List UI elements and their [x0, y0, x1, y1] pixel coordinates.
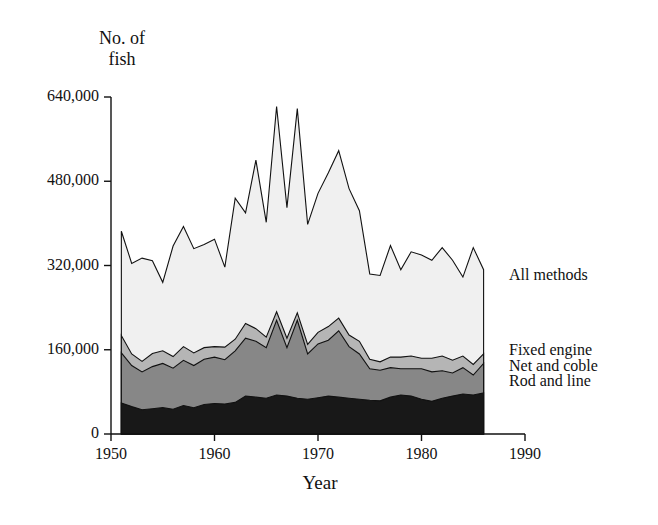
x-axis-tick-label: 1960 [170, 445, 260, 463]
x-axis-tick-label: 1970 [273, 445, 363, 463]
y-axis-tick-label: 320,000 [0, 256, 99, 274]
y-axis-tick-label: 480,000 [0, 171, 99, 189]
stacked-area-chart: No. of fish Year 0160,000320,000480,0006… [0, 0, 658, 525]
area-series-group [121, 106, 483, 434]
y-axis-tick-label: 640,000 [0, 87, 99, 105]
y-axis-tick-label: 160,000 [0, 340, 99, 358]
x-axis-tick-label: 1980 [377, 445, 467, 463]
y-axis-tick-label: 0 [0, 424, 99, 442]
x-axis-tick-label: 1950 [66, 445, 156, 463]
series-annotation-all-methods: All methods [509, 266, 588, 284]
series-annotation-rod-and-line: Rod and line [509, 372, 591, 390]
x-axis-tick-label: 1990 [480, 445, 570, 463]
